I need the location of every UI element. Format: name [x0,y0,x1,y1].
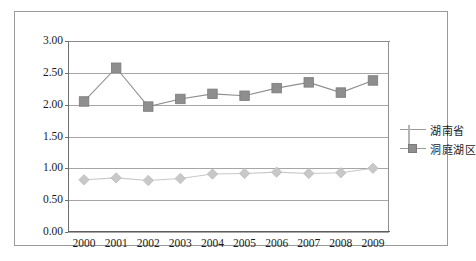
legend-item-diamond[interactable]: 湖南省 [400,120,476,139]
chart-frame: 0.000.501.001.502.002.503.00 20002001200… [14,11,448,246]
x-tick-labels: 2000200120022003200420052006200720082009 [15,12,447,245]
legend-label-hunan: 湖南省 [430,122,465,138]
chart-legend: 湖南省 洞庭湖区 [400,120,476,158]
legend-diamond-icon [400,123,426,137]
legend-square-icon [400,142,426,156]
legend-label-dongting: 洞庭湖区 [430,141,476,157]
x-tick-label: 2009 [353,238,393,250]
legend-item-square[interactable]: 洞庭湖区 [400,139,476,158]
